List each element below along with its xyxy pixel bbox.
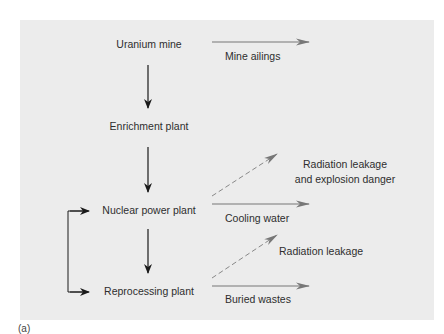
node-nuclear-power-plant: Nuclear power plant [102, 204, 195, 216]
label-radiation-explosion-line1: Radiation leakage [295, 157, 395, 172]
node-reprocessing-plant: Reprocessing plant [104, 285, 194, 297]
node-enrichment-plant: Enrichment plant [110, 120, 189, 132]
label-buried-wastes: Buried wastes [225, 293, 291, 305]
loop-line [68, 211, 88, 292]
label-cooling-water: Cooling water [225, 212, 289, 224]
label-mine-tailings: Mine ailings [225, 50, 280, 62]
arrow-radiation-leakage [212, 235, 277, 278]
label-radiation-explosion-line2: and explosion danger [295, 172, 395, 187]
arrow-radiation-explosion [212, 154, 277, 196]
node-uranium-mine: Uranium mine [116, 38, 181, 50]
figure-caption: (a) [18, 323, 30, 334]
label-radiation-leakage: Radiation leakage [279, 245, 363, 257]
label-radiation-explosion: Radiation leakage and explosion danger [295, 157, 395, 187]
